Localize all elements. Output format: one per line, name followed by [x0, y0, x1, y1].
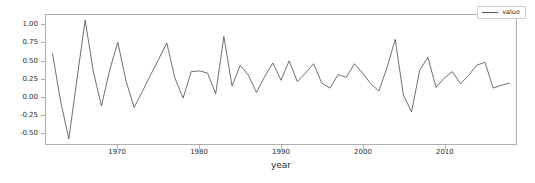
x-tick-label: 1980: [190, 148, 208, 156]
legend-line-swatch: [482, 12, 498, 13]
legend: value: [477, 6, 526, 19]
x-tick-mark: [199, 145, 200, 149]
chart-figure: 1.000.750.500.250.00-0.25-0.50 197019801…: [0, 0, 535, 183]
legend-label: value: [502, 9, 520, 16]
x-tick-mark: [363, 145, 364, 149]
x-tick-label: 2010: [436, 148, 454, 156]
x-axis-ticks: 19701980199020002010: [0, 0, 535, 183]
x-tick-label: 1970: [108, 148, 126, 156]
x-tick-mark: [445, 145, 446, 149]
x-tick-mark: [281, 145, 282, 149]
x-tick-label: 1990: [272, 148, 290, 156]
x-tick-mark: [117, 145, 118, 149]
x-axis-title: year: [271, 160, 291, 170]
x-tick-label: 2000: [354, 148, 372, 156]
